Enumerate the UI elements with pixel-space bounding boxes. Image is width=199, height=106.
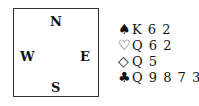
club-icon: ♣ — [118, 69, 132, 85]
suit-row-diamonds: ◇Q 5 — [118, 53, 199, 69]
diamond-icon: ◇ — [118, 53, 132, 69]
compass-box: N W E S — [13, 8, 99, 97]
east-label: E — [80, 50, 90, 63]
hand: ♠K 6 2 ♡Q 6 2 ◇Q 5 ♣Q 9 8 7 3 — [118, 21, 199, 85]
west-label: W — [20, 50, 35, 63]
heart-icon: ♡ — [118, 37, 132, 53]
south-label: S — [51, 81, 60, 94]
north-label: N — [50, 15, 62, 28]
suit-row-clubs: ♣Q 9 8 7 3 — [118, 69, 199, 85]
spade-icon: ♠ — [118, 21, 132, 37]
heart-cards: Q 6 2 — [132, 38, 172, 53]
club-cards: Q 9 8 7 3 — [132, 70, 199, 85]
spade-cards: K 6 2 — [132, 22, 172, 37]
suit-row-hearts: ♡Q 6 2 — [118, 37, 199, 53]
diamond-cards: Q 5 — [132, 54, 158, 69]
suit-row-spades: ♠K 6 2 — [118, 21, 199, 37]
